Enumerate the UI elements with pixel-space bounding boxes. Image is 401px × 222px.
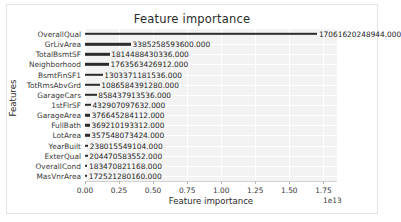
bar-row: MasVnrArea172521280160.000 (85, 171, 337, 181)
bar-value-label: 238015549104.000 (90, 141, 163, 150)
y-axis-tick-label: MasVnrArea (36, 171, 81, 180)
x-axis-tick (153, 181, 154, 184)
y-axis-label: Features (8, 48, 18, 148)
y-axis-tick-label: ExterQual (44, 151, 81, 160)
y-axis-tick-label: YearBuilt (49, 141, 81, 150)
bar-row: LotArea357548073424.000 (85, 130, 337, 140)
y-axis-tick-label: LotArea (53, 131, 81, 140)
y-axis-tick-label: TotalBsmtSF (36, 50, 81, 59)
x-axis-tick (187, 181, 188, 184)
bar-row: GrLivArea3385258593600.000 (85, 39, 337, 49)
bar-value-label: 3385258593600.000 (133, 40, 211, 49)
chart-title: Feature importance (7, 12, 377, 26)
plot-area: OverallQual17061620248944.000GrLivArea33… (85, 29, 337, 181)
bar-value-label: 1814488430336.000 (111, 50, 189, 59)
bar-value-label: 369210193312.000 (92, 121, 165, 130)
bar-row: GarageArea376645284112.000 (85, 110, 337, 120)
bar-row: OverallCond183470821168.000 (85, 161, 337, 171)
x-axis-tick (85, 181, 86, 184)
bar-value-label: 183470821168.000 (89, 161, 162, 170)
bar (85, 84, 100, 86)
bar-row: TotalBsmtSF1814488430336.000 (85, 49, 337, 59)
bar-row: ExterQual204470583552.000 (85, 151, 337, 161)
bar-value-label: 376645284112.000 (92, 111, 165, 120)
bar (85, 124, 90, 126)
y-axis-tick-label: OverallCond (36, 161, 81, 170)
x-axis-tick-label: 1.50 (281, 186, 297, 195)
x-axis-tick-label: 1.00 (213, 186, 229, 195)
chart-figure: Feature importance OverallQual1706162024… (6, 4, 378, 214)
x-axis-tick-label: 0.00 (77, 186, 93, 195)
bar-value-label: 357548073424.000 (91, 131, 164, 140)
x-axis-tick (323, 181, 324, 184)
x-axis-label: Feature importance (85, 196, 337, 206)
y-axis-tick-label: 1stFlrSF (51, 100, 81, 109)
bar (85, 134, 90, 136)
bar (85, 144, 88, 146)
bar (85, 53, 110, 55)
x-axis-tick-label: 1.25 (247, 186, 263, 195)
bar (85, 43, 131, 45)
bar-row: GarageCars858437913536.000 (85, 90, 337, 100)
bar-row: OverallQual17061620248944.000 (85, 29, 337, 39)
y-axis-tick-label: Neighborhood (29, 60, 81, 69)
bar-row: BsmtFinSF11303371181536.000 (85, 70, 337, 80)
bar-value-label: 858437913536.000 (98, 90, 171, 99)
bar (85, 33, 317, 35)
bar-value-label: 1763563426912.000 (111, 60, 189, 69)
y-axis-tick-label: TotRmsAbvGrd (27, 80, 81, 89)
bar (85, 175, 87, 177)
x-axis-tick (255, 181, 256, 184)
bar (85, 63, 109, 65)
y-axis-tick-label: OverallQual (38, 30, 82, 39)
y-axis-tick-label: FullBath (51, 121, 81, 130)
bar-row: 1stFlrSF432907097632.000 (85, 100, 337, 110)
bar-value-label: 17061620248944.000 (319, 30, 401, 39)
x-axis-tick (221, 181, 222, 184)
bar (85, 73, 103, 75)
y-axis-tick-label: GarageArea (37, 111, 81, 120)
y-axis-tick-label: GarageCars (37, 90, 81, 99)
bar (85, 114, 90, 116)
bar (85, 165, 87, 167)
bar-row: Neighborhood1763563426912.000 (85, 59, 337, 69)
bar-row: TotRmsAbvGrd1086584391280.000 (85, 80, 337, 90)
x-axis-tick (289, 181, 290, 184)
bar (85, 104, 91, 106)
x-axis (85, 181, 337, 182)
bar-row: YearBuilt238015549104.000 (85, 140, 337, 150)
x-axis-tick (119, 181, 120, 184)
bar-value-label: 1303371181536.000 (104, 70, 182, 79)
bar-row: FullBath369210193312.000 (85, 120, 337, 130)
bar-value-label: 432907097632.000 (92, 100, 165, 109)
x-axis-tick-label: 0.75 (179, 186, 195, 195)
x-axis-tick-label: 1.75 (315, 186, 331, 195)
x-axis-offset-text: 1e13 (323, 196, 342, 205)
bar-value-label: 204470583552.000 (89, 151, 162, 160)
y-axis-tick-label: GrLivArea (45, 40, 81, 49)
bar-value-label: 1086584391280.000 (101, 80, 179, 89)
bar (85, 94, 97, 96)
y-axis-tick-label: BsmtFinSF1 (38, 70, 81, 79)
bar-value-label: 172521280160.000 (89, 171, 162, 180)
bar (85, 154, 88, 156)
x-axis-tick-label: 0.50 (145, 186, 161, 195)
x-axis-tick-label: 0.25 (111, 186, 127, 195)
